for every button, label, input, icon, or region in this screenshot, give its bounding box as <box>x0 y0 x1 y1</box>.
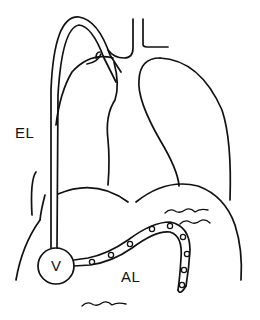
abdominal-limb-label: AL <box>121 268 140 285</box>
right-lung <box>56 52 117 185</box>
external-limb-catheter <box>51 17 121 248</box>
external-limb-label: EL <box>15 124 34 141</box>
valve-label: V <box>46 257 66 274</box>
trachea <box>108 19 168 58</box>
left-lung <box>139 58 230 200</box>
fluid-waves <box>82 209 210 306</box>
